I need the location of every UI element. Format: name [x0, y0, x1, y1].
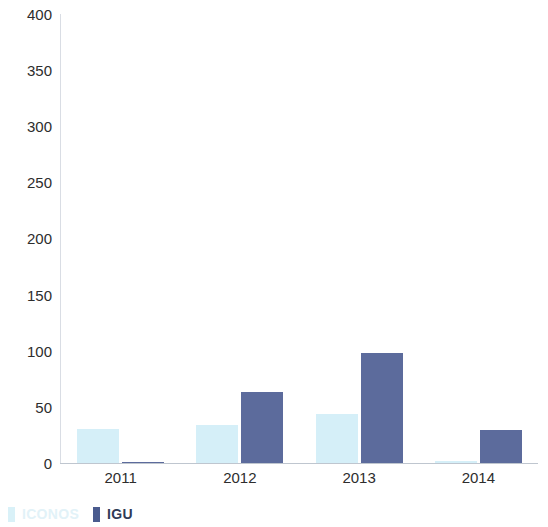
- bar-igu-2012[interactable]: [241, 392, 283, 463]
- legend-item-igu[interactable]: IGU: [93, 507, 133, 522]
- bar-iconos-2013[interactable]: [316, 414, 358, 463]
- y-axis-tick-250: 250: [4, 175, 52, 190]
- x-axis-tick-labels: 2011201220132014: [61, 468, 538, 492]
- bar-group-2013: [300, 14, 419, 463]
- x-axis-tick-2012: 2012: [180, 468, 299, 488]
- bar-igu-2013[interactable]: [361, 353, 403, 463]
- bars-layer: [61, 14, 538, 463]
- chart-legend: ICONOS IGU: [8, 504, 133, 524]
- legend-label-iconos: ICONOS: [22, 507, 79, 521]
- bar-group-2011: [61, 14, 180, 463]
- bar-igu-2014[interactable]: [480, 430, 522, 463]
- x-axis-line: [60, 463, 538, 464]
- bar-group-2014: [419, 14, 538, 463]
- bar-igu-2011[interactable]: [122, 462, 164, 463]
- y-axis-tick-400: 400: [4, 7, 52, 22]
- legend-label-igu: IGU: [107, 507, 133, 521]
- bar-iconos-2014[interactable]: [435, 461, 477, 463]
- x-axis-tick-2014: 2014: [419, 468, 538, 488]
- bar-iconos-2011[interactable]: [77, 429, 119, 463]
- x-axis-tick-2013: 2013: [300, 468, 419, 488]
- bar-iconos-2012[interactable]: [196, 425, 238, 463]
- y-axis-tick-300: 300: [4, 119, 52, 134]
- bar-chart: 400 350 300 250 200 150 100 50 0 2011201…: [0, 0, 548, 527]
- y-axis-tick-200: 200: [4, 231, 52, 246]
- y-axis-tick-labels: 400 350 300 250 200 150 100 50 0: [0, 0, 52, 527]
- legend-swatch-iconos-icon: [8, 507, 15, 522]
- legend-item-iconos[interactable]: ICONOS: [8, 507, 79, 522]
- legend-swatch-igu-icon: [93, 507, 100, 522]
- bar-group-2012: [180, 14, 299, 463]
- y-axis-tick-50: 50: [4, 400, 52, 415]
- x-axis-tick-2011: 2011: [61, 468, 180, 488]
- y-axis-tick-100: 100: [4, 344, 52, 359]
- y-axis-tick-150: 150: [4, 288, 52, 303]
- y-axis-tick-350: 350: [4, 63, 52, 78]
- y-axis-tick-0: 0: [4, 456, 52, 471]
